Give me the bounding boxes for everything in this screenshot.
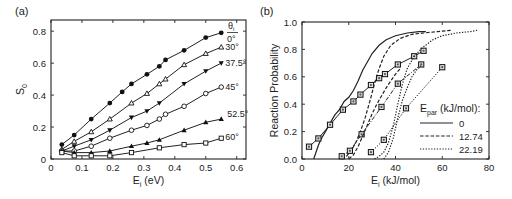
- x-axis-label: Ei (kJ/mol): [371, 174, 420, 188]
- data-point-marker: [203, 91, 208, 96]
- x-tick-label: 60: [437, 162, 448, 173]
- x-tick-label: 0: [48, 162, 53, 173]
- x-tick-label: 0.5: [199, 162, 212, 173]
- data-point-marker: [403, 106, 408, 111]
- data-point-marker: [120, 89, 125, 94]
- chart-a-canvas: (a)00.10.20.30.40.50.600.20.40.60.8Ei (e…: [0, 0, 256, 199]
- data-point-marker: [368, 82, 373, 87]
- data-point-marker: [219, 85, 224, 90]
- data-point-marker: [129, 151, 133, 155]
- data-point-marker: [89, 117, 94, 122]
- y-tick-label: 0.8: [33, 26, 46, 37]
- y-tick-label: 0.2: [33, 122, 46, 133]
- data-point-marker: [340, 107, 345, 112]
- panel-label: (a): [15, 5, 28, 17]
- data-point-marker: [339, 154, 344, 159]
- series-label: 30°: [225, 42, 239, 52]
- data-point-marker: [145, 72, 150, 77]
- series-label: 60°: [225, 132, 239, 142]
- series-line: [309, 51, 424, 147]
- data-point-marker: [203, 35, 208, 40]
- data-point-marker: [157, 146, 161, 150]
- legend-label: 22.19: [459, 144, 483, 155]
- data-point-marker: [219, 45, 224, 50]
- legend: Epar (kJ/mol):012.7422.19: [420, 102, 483, 155]
- data-point-marker: [204, 141, 208, 145]
- series-line: [62, 138, 221, 156]
- data-point-marker: [440, 65, 445, 70]
- series-label: 52.5°: [227, 109, 249, 119]
- x-tick-label: 0: [299, 162, 304, 173]
- series-line: [62, 63, 221, 151]
- data-point-marker: [157, 101, 162, 106]
- data-point-marker: [347, 148, 352, 153]
- panel-label: (b): [260, 5, 273, 17]
- legend-label: 0: [459, 118, 464, 129]
- series-line: [314, 32, 426, 159]
- data-point-marker: [107, 101, 112, 106]
- data-point-marker: [182, 143, 186, 147]
- data-point-marker: [368, 150, 373, 155]
- y-tick-label: 0.2: [284, 126, 297, 137]
- y-tick-label: 0: [41, 154, 46, 165]
- data-point-marker: [358, 92, 363, 97]
- inline-series-labels: θi0°30°37.5°45°52.5°60°: [225, 21, 249, 142]
- data-point-marker: [72, 133, 77, 138]
- chart-b-canvas: (b)0204060800.00.20.40.60.81.0Ei (kJ/mol…: [256, 0, 512, 199]
- x-tick-label: 0.3: [137, 162, 150, 173]
- data-point-marker: [327, 122, 332, 127]
- x-tick-label: 0.1: [75, 162, 88, 173]
- data-point-marker: [381, 137, 386, 142]
- data-point-marker: [395, 81, 400, 86]
- legend-item: 0: [420, 118, 464, 129]
- data-point-marker: [108, 154, 112, 158]
- x-axis-label: Ei (eV): [133, 174, 164, 188]
- data-series: [60, 136, 224, 158]
- y-tick-label: 0.6: [33, 58, 46, 69]
- series-label: 45°: [225, 82, 239, 92]
- x-tick-label: 0.2: [106, 162, 119, 173]
- data-series: [59, 30, 223, 147]
- x-tick-label: 0.4: [168, 162, 181, 173]
- y-tick-label: 0.4: [33, 90, 46, 101]
- legend-item: 22.19: [420, 144, 483, 155]
- data-point-marker: [60, 151, 64, 155]
- data-point-marker: [145, 123, 150, 128]
- data-point-marker: [157, 64, 162, 69]
- data-point-marker: [72, 154, 76, 158]
- panel-a-sticking-probability-chart: (a)00.10.20.30.40.50.600.20.40.60.8Ei (e…: [0, 0, 256, 199]
- data-point-marker: [219, 116, 224, 121]
- data-point-marker: [316, 136, 321, 141]
- data-point-marker: [163, 58, 168, 63]
- y-axis-label: Reaction Probability: [268, 43, 280, 137]
- data-point-marker: [182, 104, 187, 109]
- legend-label: 12.74: [459, 131, 483, 142]
- data-point-marker: [182, 48, 187, 53]
- data-point-marker: [129, 100, 134, 105]
- y-tick-label: 0.4: [284, 99, 297, 110]
- data-point-marker: [219, 30, 224, 35]
- series-line: [62, 33, 221, 145]
- data-series: [314, 32, 426, 159]
- panel-b-reaction-probability-chart: (b)0204060800.00.20.40.60.81.0Ei (kJ/mol…: [256, 0, 512, 199]
- data-point-marker: [163, 112, 168, 117]
- y-tick-label: 0.8: [284, 44, 297, 55]
- data-point-marker: [129, 116, 134, 121]
- y-tick-label: 0.0: [284, 154, 297, 165]
- data-point-marker: [219, 136, 223, 140]
- data-point-marker: [107, 116, 112, 121]
- data-point-marker: [351, 99, 356, 104]
- data-point-marker: [203, 51, 208, 56]
- y-tick-label: 1.0: [284, 17, 297, 28]
- data-point-marker: [203, 69, 208, 74]
- data-point-marker: [379, 104, 384, 109]
- x-tick-label: 40: [390, 162, 401, 173]
- data-point-marker: [382, 71, 387, 76]
- data-point-marker: [89, 144, 94, 149]
- data-point-marker: [108, 136, 113, 141]
- x-tick-label: 0.6: [230, 162, 243, 173]
- data-point-marker: [157, 117, 162, 122]
- data-point-marker: [182, 62, 187, 67]
- x-tick-label: 80: [484, 162, 495, 173]
- x-tick-label: 20: [343, 162, 354, 173]
